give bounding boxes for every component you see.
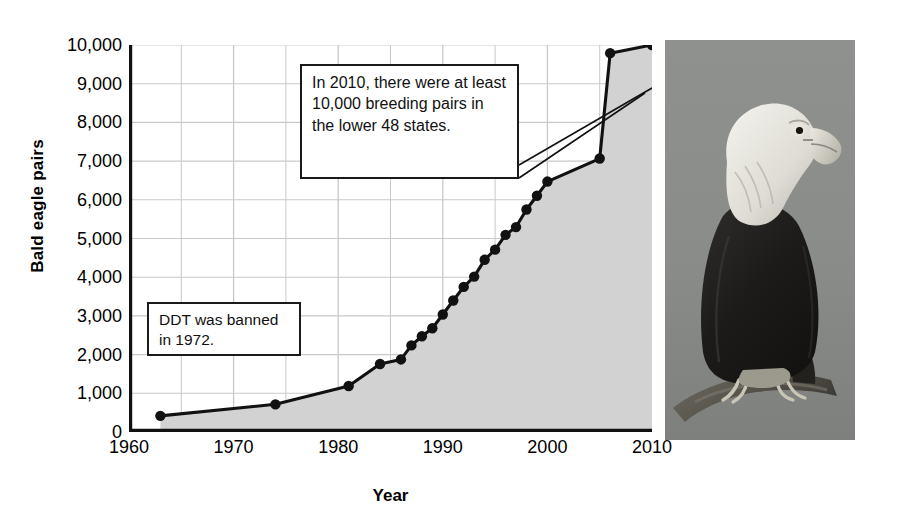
data-point-marker [605,48,615,58]
data-point-marker [542,176,552,186]
data-point-marker [375,359,385,369]
data-point-marker [438,309,448,319]
y-tick-label: 8,000 [12,112,122,133]
y-tick-label: 4,000 [12,267,122,288]
y-tick-label: 7,000 [12,151,122,172]
y-tick-label: 10,000 [12,35,122,56]
x-tick-label: 1960 [84,437,174,458]
data-point-marker [406,340,416,350]
figure-root: Bald eagle pairs 0 1,000 2,000 3,000 4,0… [0,0,902,529]
data-point-marker [417,331,427,341]
data-point-marker [448,295,458,305]
data-point-marker [479,255,489,265]
data-point-marker [343,381,353,391]
data-point-marker [532,191,542,201]
callout-2010-breeding-pairs: In 2010, there were at least 10,000 bree… [300,64,519,179]
x-tick-label: 1980 [293,437,383,458]
data-point-marker [595,153,605,163]
data-point-marker [155,411,165,421]
y-tick-label: 5,000 [12,228,122,249]
x-tick-label: 2010 [607,437,697,458]
x-tick-label: 2000 [502,437,592,458]
data-point-marker [521,204,531,214]
data-point-marker [469,271,479,281]
y-tick-label: 3,000 [12,305,122,326]
data-point-marker [270,399,280,409]
callout-ddt-banned: DDT was banned in 1972. [147,302,301,356]
data-point-marker [490,244,500,254]
bald-eagle-photo [665,40,855,440]
y-tick-label: 6,000 [12,189,122,210]
data-point-marker [511,222,521,232]
y-tick-label: 1,000 [12,383,122,404]
x-axis-title: Year [129,486,652,506]
eye-pupil [796,127,803,134]
x-tick-label: 1970 [189,437,279,458]
data-point-marker [459,282,469,292]
bald-eagle-illustration [665,40,855,440]
y-tick-label: 9,000 [12,73,122,94]
data-point-marker [427,323,437,333]
data-point-marker [500,230,510,240]
y-tick-label: 2,000 [12,344,122,365]
data-point-marker [396,354,406,364]
x-tick-label: 1990 [398,437,488,458]
